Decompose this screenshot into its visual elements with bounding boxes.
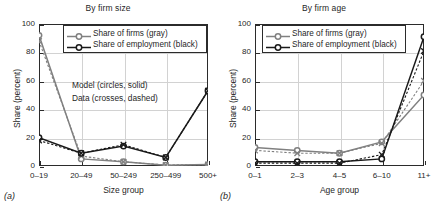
- data-point-circle: [421, 92, 426, 97]
- series-line: [255, 51, 424, 163]
- data-point-circle: [36, 135, 41, 140]
- series-line: [255, 81, 424, 153]
- data-point-circle: [252, 145, 257, 150]
- panel-by-firm-age: By firm age Share (percent) Age group (b…: [216, 0, 432, 218]
- data-point-cross: [421, 78, 427, 84]
- data-point-circle: [295, 148, 300, 153]
- data-point-circle: [36, 33, 41, 38]
- series-line: [255, 37, 424, 162]
- data-point-cross: [421, 48, 427, 54]
- series-line: [255, 95, 424, 153]
- data-point-circle: [421, 34, 426, 39]
- data-point-circle: [79, 156, 84, 161]
- panel-by-firm-size: By firm size Share (percent) Size group …: [0, 0, 216, 218]
- figure-two-panel-chart: By firm size Share (percent) Size group …: [0, 0, 432, 218]
- data-series-layer: [0, 0, 216, 218]
- data-series-layer: [216, 0, 432, 218]
